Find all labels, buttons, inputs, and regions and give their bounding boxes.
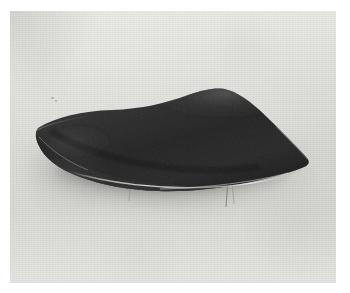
film-grain (10, 11, 336, 283)
photo-mount (0, 0, 350, 293)
photographic-print (10, 11, 336, 283)
